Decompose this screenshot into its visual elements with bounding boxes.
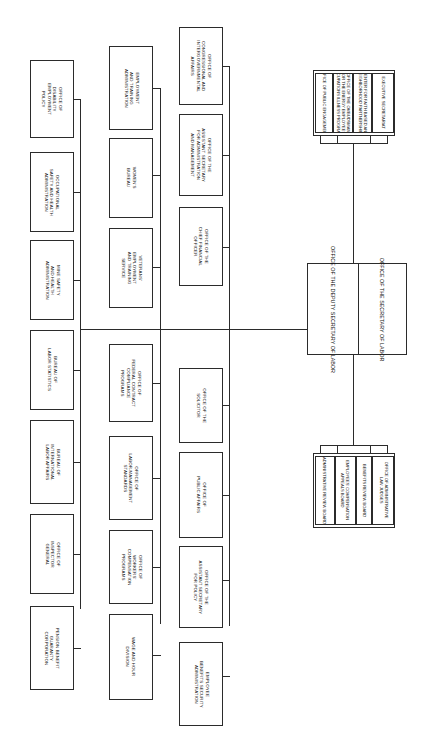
node-label: OFFICE OF THE ASSISTANT SECRETARY FOR PO…: [193, 560, 210, 614]
connector-column-c-spine-lower: [229, 329, 230, 626]
connector-column-a-spine-lower: [80, 329, 81, 609]
node-label: OFFICE OF WORKERS' COMPENSATION PROGRAMS: [120, 549, 142, 586]
connector-b-stub-6: [153, 655, 161, 656]
node-womens-bureau[interactable]: WOMEN'S BUREAU: [109, 138, 153, 218]
node-employees-compensation-appeals-board[interactable]: EMPLOYEES' COMPENSATION APPEALS BOARD: [335, 456, 356, 525]
node-label: WOMEN'S BUREAU: [125, 167, 136, 189]
node-benefits-review-board[interactable]: BENEFITS REVIEW BOARD: [356, 456, 372, 525]
connector-a-stub-5: [73, 554, 81, 555]
node-label: PENSION BENEFIT GUARANTY CORPORATION: [44, 627, 61, 668]
connector-main-spine: [80, 329, 307, 330]
node-employee-benefits-security-administration[interactable]: EMPLOYEE BENEFITS SECURITY ADMINISTRATIO…: [179, 642, 223, 726]
node-label: BENEFITS REVIEW BOARD: [361, 464, 366, 517]
connector-b-stub-3: [153, 383, 161, 384]
connector-staff-stub-3: [337, 136, 338, 144]
node-label: OCCUPATIONAL SAFETY AND HEALTH ADMINISTR…: [44, 168, 61, 216]
node-office-of-public-engagement[interactable]: OFFICE OF PUBLIC ENGAGEMENT: [315, 73, 333, 133]
connector-c-stub-4: [222, 495, 230, 496]
node-office-of-disability-employment-policy[interactable]: OFFICE OF DISABILITY EMPLOYMENT POLICY: [30, 60, 74, 138]
connector-a-stub-2: [73, 280, 81, 281]
deputy-line-2: DEPUTY SECRETARY: [330, 288, 336, 344]
node-label: OFFICE OF CONGRESSIONAL AND INTERGOVERNM…: [190, 40, 212, 92]
node-label: CENTER FOR FAITH BASED AND NEIGHBORHOOD …: [357, 73, 367, 133]
node-wage-and-hour-division[interactable]: WAGE AND HOUR DIVISION: [109, 614, 153, 700]
node-label: VETERANS' EMPLOYMENT AND TRAINING SERVIC…: [120, 252, 142, 285]
deputy-line-3: OF LABOR: [330, 345, 336, 372]
node-office-of-inspector-general[interactable]: OFFICE OF INSPECTOR GENERAL: [30, 514, 74, 594]
node-office-of-the-chief-financial-officer[interactable]: OFFICE OF THE CHIEF FINANCIAL OFFICER: [179, 207, 223, 286]
secretary-label: OFFICE OF THE SECRETARY OF LABOR: [379, 257, 386, 361]
node-label: MINE SAFETY AND HEALTH ADMINISTRATION: [44, 261, 61, 300]
node-label: EMPLOYEES' COMPENSATION APPEALS BOARD: [340, 460, 350, 520]
connector-c-stub-0: [222, 66, 230, 67]
node-label: OFFICE OF THE OMBUDSMAN FOR THE ENERGY E…: [335, 73, 351, 133]
node-office-of-the-ombudsman-energy-employees[interactable]: OFFICE OF THE OMBUDSMAN FOR THE ENERGY E…: [333, 73, 353, 133]
office-of-the-secretary-of-labor-box[interactable]: OFFICE OF THE SECRETARY OF LABOR OFFICE …: [307, 263, 407, 355]
connector-staff-stub-2: [370, 136, 371, 144]
node-office-of-the-assistant-secretary-for-administration-and-management[interactable]: OFFICE OF THE ASSISTANT SECRETARY FOR AD…: [179, 114, 223, 196]
node-bureau-of-international-labor-affairs[interactable]: BUREAU OF INTERNATIONAL LABOR AFFAIRS: [30, 420, 74, 504]
connector-boards-bus: [320, 445, 387, 446]
connector-boards-stub-2: [370, 445, 371, 453]
node-center-for-faith-based-and-neighborhood-partnerships[interactable]: CENTER FOR FAITH BASED AND NEIGHBORHOOD …: [353, 73, 372, 133]
connector-c-stub-5: [222, 580, 230, 581]
adjudicatory-boards-cluster: OFFICE OF ADMINISTRATIVE LAW JUDGES BENE…: [313, 453, 395, 528]
connector-c-stub-2: [222, 247, 230, 248]
connector-c-stub-1: [222, 155, 230, 156]
node-label: EMPLOYMENT AND TRAINING ADMINISTRATION: [123, 69, 140, 108]
secretary-line-3: OF LABOR: [380, 334, 386, 361]
node-label: OFFICE OF DISABILITY EMPLOYMENT POLICY: [41, 83, 63, 115]
node-label: OFFICE OF THE SOLICITOR: [195, 388, 206, 423]
connector-staff-stub-4: [320, 136, 321, 144]
node-label: OFFICE OF ADMINISTRATIVE LAW JUDGES: [378, 462, 388, 519]
node-label: OFFICE OF FEDERAL CONTRACT COMPLIANCE PR…: [120, 359, 142, 407]
deputy-secretary-cell[interactable]: OFFICE OF THE DEPUTY SECRETARY OF LABOR: [308, 264, 356, 354]
node-office-of-workers-compensation-programs[interactable]: OFFICE OF WORKERS' COMPENSATION PROGRAMS: [109, 530, 153, 604]
node-office-of-congressional-and-intergovernmental-affairs[interactable]: OFFICE OF CONGRESSIONAL AND INTERGOVERNM…: [179, 27, 223, 105]
connector-a-stub-6: [73, 648, 81, 649]
secretary-line-2: SECRETARY: [380, 300, 386, 332]
secretary-cell[interactable]: OFFICE OF THE SECRETARY OF LABOR: [358, 264, 406, 354]
connector-staff-to-secretary: [353, 143, 354, 263]
connector-a-stub-0: [73, 99, 81, 100]
connector-staff-bus: [320, 143, 387, 144]
node-label: OFFICE OF PUBLIC AFFAIRS: [195, 477, 206, 514]
connector-a-stub-1: [73, 192, 81, 193]
node-employment-and-training-administration[interactable]: EMPLOYMENT AND TRAINING ADMINISTRATION: [109, 46, 153, 130]
connector-column-a-spine-upper: [80, 99, 81, 329]
node-executive-secretariat[interactable]: EXECUTIVE SECRETARIAT: [372, 73, 394, 133]
node-pension-benefit-guaranty-corporation[interactable]: PENSION BENEFIT GUARANTY CORPORATION: [30, 606, 74, 690]
node-label: EXECUTIVE SECRETARIAT: [380, 77, 385, 129]
node-label: ADMINISTRATIVE REVIEW BOARD: [322, 457, 327, 524]
node-label: OFFICE OF PUBLIC ENGAGEMENT: [321, 73, 326, 133]
connector-c-stub-6: [222, 676, 230, 677]
node-veterans-employment-and-training-service[interactable]: VETERANS' EMPLOYMENT AND TRAINING SERVIC…: [109, 228, 153, 308]
connector-column-b-spine-lower: [160, 329, 161, 624]
deputy-line-1: OFFICE OF THE: [330, 246, 336, 287]
node-bureau-of-labor-statistics[interactable]: BUREAU OF LABOR STATISTICS: [30, 330, 74, 410]
connector-b-stub-5: [153, 567, 161, 568]
node-administrative-review-board[interactable]: ADMINISTRATIVE REVIEW BOARD: [315, 456, 335, 525]
node-mine-safety-and-health-administration[interactable]: MINE SAFETY AND HEALTH ADMINISTRATION: [30, 240, 74, 320]
deputy-secretary-label: OFFICE OF THE DEPUTY SECRETARY OF LABOR: [329, 246, 336, 373]
node-office-of-public-affairs[interactable]: OFFICE OF PUBLIC AFFAIRS: [179, 452, 223, 538]
connector-a-stub-4: [73, 462, 81, 463]
connector-column-c-spine-upper: [229, 66, 230, 329]
node-occupational-safety-and-health-administration[interactable]: OCCUPATIONAL SAFETY AND HEALTH ADMINISTR…: [30, 152, 74, 232]
node-office-of-the-assistant-secretary-for-policy[interactable]: OFFICE OF THE ASSISTANT SECRETARY FOR PO…: [179, 546, 223, 628]
node-label: BUREAU OF LABOR STATISTICS: [46, 349, 57, 392]
org-chart-canvas: OFFICE OF THE SECRETARY OF LABOR OFFICE …: [0, 0, 441, 741]
secretary-staff-cluster: EXECUTIVE SECRETARIAT CENTER FOR FAITH B…: [313, 70, 395, 136]
node-office-of-administrative-law-judges[interactable]: OFFICE OF ADMINISTRATIVE LAW JUDGES: [372, 456, 394, 525]
node-office-of-federal-contract-compliance-programs[interactable]: OFFICE OF FEDERAL CONTRACT COMPLIANCE PR…: [109, 344, 153, 422]
connector-staff-stub-1: [387, 136, 388, 144]
node-office-of-labor-management-standards[interactable]: OFFICE OF LABOR-MANAGEMENT STANDARDS: [109, 436, 153, 520]
node-office-of-the-solicitor[interactable]: OFFICE OF THE SOLICITOR: [179, 368, 223, 443]
connector-b-stub-0: [153, 88, 161, 89]
connector-secretary-to-boards: [353, 355, 354, 445]
connector-boards-stub-4: [320, 445, 321, 453]
node-label: OFFICE OF THE ASSISTANT SECRETARY FOR AD…: [190, 128, 212, 182]
node-label: OFFICE OF LABOR-MANAGEMENT STANDARDS: [123, 453, 140, 503]
node-label: EMPLOYEE BENEFITS SECURITY ADMINISTRATIO…: [193, 661, 210, 708]
node-label: OFFICE OF THE CHIEF FINANCIAL OFFICER: [193, 227, 210, 266]
